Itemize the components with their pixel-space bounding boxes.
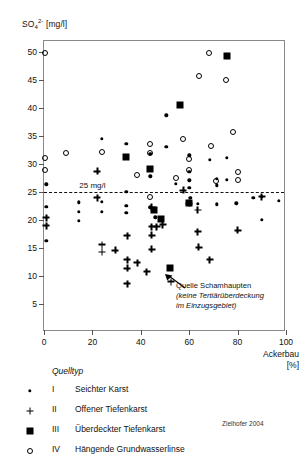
data-point-dot	[77, 219, 80, 222]
data-point-circle	[196, 73, 202, 79]
data-point-circle	[213, 178, 219, 184]
x-axis-tick	[286, 330, 287, 335]
y-axis-tick	[39, 304, 44, 305]
data-point-plus	[134, 259, 141, 266]
data-point-dot	[165, 114, 168, 117]
y-axis-tick-label: 50	[28, 48, 37, 57]
data-point-square	[158, 215, 165, 222]
data-point-dot	[187, 186, 190, 189]
data-point-square	[176, 101, 183, 108]
y-axis-tick	[39, 80, 44, 81]
legend-marker-square	[27, 428, 34, 435]
data-point-plus	[99, 248, 106, 255]
legend-item: IIOffener Tiefenkarst	[0, 402, 307, 420]
x-axis-tick-label: 40	[136, 338, 145, 347]
data-point-plus	[124, 256, 131, 263]
data-point-circle	[134, 172, 140, 178]
data-point-dot	[215, 203, 218, 206]
data-point-square	[151, 207, 158, 214]
annotation-text: Quelle Schamhaupten (keine Tertiärüberde…	[176, 281, 264, 311]
data-point-square	[147, 165, 154, 172]
data-point-plus	[194, 228, 201, 235]
y-axis-tick-label: 45	[28, 76, 37, 85]
legend-label: Seichter Karst	[75, 384, 128, 394]
legend-label: Hängende Grundwasserlinse	[75, 444, 185, 454]
data-point-dot	[125, 211, 128, 214]
data-point-circle	[235, 177, 241, 183]
data-point-circle	[223, 77, 229, 83]
y-axis-tick-label: 40	[28, 104, 37, 113]
y-axis-title-sub: 4	[34, 24, 37, 30]
annotation-line-2: (keine Tertiärüberdeckung	[176, 291, 264, 301]
x-axis-tick	[238, 330, 239, 335]
data-point-circle	[99, 149, 105, 155]
data-point-circle	[208, 143, 214, 149]
data-point-circle	[180, 136, 186, 142]
legend-marker-circle	[27, 448, 33, 454]
data-point-plus	[143, 268, 150, 275]
y-axis-tick	[39, 136, 44, 137]
legend-item: IVHängende Grundwasserlinse	[0, 442, 307, 460]
data-point-dot	[277, 199, 280, 202]
data-point-dot	[260, 218, 263, 221]
data-point-dot	[225, 156, 228, 159]
x-axis-tick-label: 20	[88, 338, 97, 347]
x-axis-tick	[44, 330, 45, 335]
data-point-square	[223, 53, 230, 60]
data-point-dot	[77, 210, 80, 213]
data-point-plus	[206, 256, 213, 263]
data-point-dot	[196, 202, 199, 205]
data-point-plus	[124, 265, 131, 272]
x-axis-tick-label: 0	[42, 338, 47, 347]
legend-roman: IV	[52, 444, 60, 454]
data-point-dot	[149, 175, 152, 178]
data-point-dot	[100, 137, 103, 140]
data-point-dot	[165, 145, 168, 148]
data-point-dot	[174, 182, 177, 185]
data-point-dot	[154, 216, 157, 219]
legend-roman: I	[52, 384, 54, 394]
data-point-plus	[180, 187, 187, 194]
chart-figure: SO42- [mg/l] 510152025303540455002040608…	[0, 0, 307, 468]
data-point-plus	[194, 207, 201, 214]
data-point-dot	[45, 239, 48, 242]
data-point-plus	[99, 241, 106, 248]
y-axis-tick	[39, 248, 44, 249]
x-axis-title-unit: [%]	[263, 360, 299, 371]
data-point-dot	[125, 190, 128, 193]
y-axis-tick-label: 30	[28, 160, 37, 169]
data-point-dot	[235, 202, 238, 205]
x-axis-title-label: Ackerbau	[263, 349, 299, 360]
data-point-circle	[42, 167, 48, 173]
data-point-circle	[147, 194, 153, 200]
x-axis-title: Ackerbau [%]	[263, 349, 299, 370]
data-point-plus	[148, 246, 155, 253]
data-point-circle	[206, 50, 212, 56]
data-point-square	[123, 153, 130, 160]
x-axis-tick	[141, 330, 142, 335]
data-point-square	[186, 200, 193, 207]
data-point-plus	[43, 222, 50, 229]
data-point-circle	[147, 150, 153, 156]
threshold-line	[44, 192, 284, 193]
y-axis-tick-label: 15	[28, 244, 37, 253]
y-axis-tick-label: 5	[32, 300, 37, 309]
annotation-line-3: im Einzugsgebiet)	[176, 301, 264, 311]
data-point-dot	[225, 178, 228, 181]
credit-text: Zielhofer 2004	[222, 420, 264, 427]
y-axis-title: SO42- [mg/l]	[22, 18, 67, 30]
data-point-plus	[94, 168, 101, 175]
y-axis-title-sup: 2-	[38, 18, 44, 24]
data-point-circle	[173, 175, 179, 181]
data-point-circle	[235, 169, 241, 175]
data-point-plus	[234, 227, 241, 234]
y-axis-tick	[39, 164, 44, 165]
data-point-plus	[258, 193, 265, 200]
data-point-dot	[100, 200, 103, 203]
threshold-label: 25 mg/l	[79, 181, 105, 190]
data-point-plus	[148, 232, 155, 239]
y-axis-tick-label: 10	[28, 272, 37, 281]
data-point-dot	[100, 210, 103, 213]
data-point-plus	[94, 194, 101, 201]
data-point-dot	[252, 196, 255, 199]
